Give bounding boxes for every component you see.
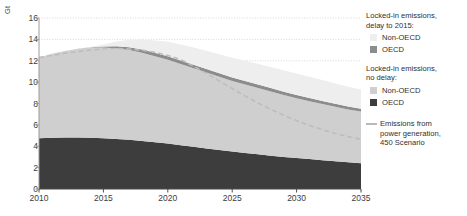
x-tick-label: 2035 — [352, 193, 371, 203]
x-tick-label: 2025 — [223, 193, 242, 203]
stacked-areas — [39, 39, 361, 189]
legend-group-title: Locked-in emissions,no delay: — [366, 64, 467, 83]
x-tick-label: 2010 — [30, 193, 49, 203]
x-tick-label: 2030 — [287, 193, 306, 203]
legend-item[interactable]: Non-OECD — [366, 86, 467, 96]
x-tick-label: 2015 — [94, 193, 113, 203]
legend-group-title-line: no delay: — [366, 73, 467, 83]
legend-item-label: OECD — [382, 98, 404, 108]
legend-group-title: Locked-in emissions,delay to 2015: — [366, 11, 467, 30]
legend-group-title-line: Locked-in emissions, — [366, 11, 467, 21]
legend-item-label-line: power generation, — [380, 129, 441, 139]
legend-line-icon — [366, 120, 377, 127]
legend-item-label: OECD — [382, 45, 404, 55]
chart-legend: Locked-in emissions,delay to 2015:Non-OE… — [366, 11, 467, 151]
legend-group-title-line: delay to 2015: — [366, 21, 467, 31]
x-tick-label: 2020 — [158, 193, 177, 203]
legend-item-label: Emissions frompower generation,450 Scena… — [380, 119, 441, 148]
legend-item-450-scenario[interactable]: Emissions frompower generation,450 Scena… — [366, 119, 467, 148]
legend-swatch-icon — [370, 87, 377, 94]
legend-item[interactable]: Non-OECD — [366, 33, 467, 43]
legend-swatch-icon — [370, 46, 377, 53]
legend-swatch-icon — [370, 99, 377, 106]
legend-item-label-line: 450 Scenario — [380, 138, 441, 148]
emissions-area-chart: Gt 0246810121416 20102015202020252030203… — [0, 0, 467, 216]
legend-spacer — [366, 110, 467, 117]
legend-group-title-line: Locked-in emissions, — [366, 64, 467, 74]
legend-item-label: Non-OECD — [382, 33, 420, 43]
legend-swatch-icon — [370, 34, 377, 41]
legend-item[interactable]: OECD — [366, 98, 467, 108]
legend-item-label-line: Emissions from — [380, 119, 441, 129]
legend-item-label: Non-OECD — [382, 86, 420, 96]
legend-item[interactable]: OECD — [366, 45, 467, 55]
legend-spacer — [366, 57, 467, 64]
